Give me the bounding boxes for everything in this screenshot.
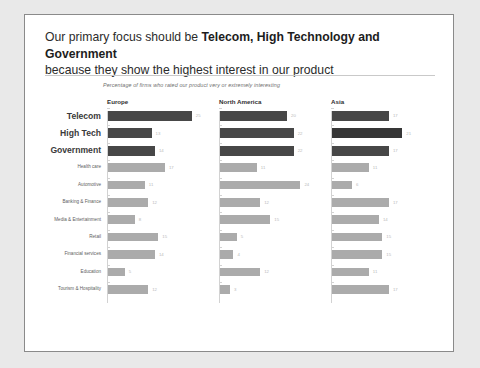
axis-tick [107, 230, 110, 231]
axis-tick [107, 195, 110, 196]
axis-tick [331, 247, 334, 248]
panel-europe: Europe25131417111281514512 [107, 91, 219, 306]
axis-tick [331, 178, 334, 179]
bar-value-label: 12 [264, 269, 269, 274]
category-label: Retail [89, 234, 101, 239]
bar [332, 181, 352, 190]
axis-tick [219, 195, 222, 196]
bar-value-label: 5 [241, 234, 243, 239]
bar [332, 198, 389, 207]
bar-value-label: 15 [162, 234, 167, 239]
axis-tick [219, 108, 222, 109]
bar-value-label: 14 [159, 148, 164, 153]
bar [332, 163, 369, 172]
axis-tick [219, 160, 222, 161]
bar-value-label: 17 [393, 200, 398, 205]
bar-value-label: 11 [373, 269, 377, 274]
bar [108, 285, 148, 294]
axis-tick [107, 125, 110, 126]
bar-value-label: 11 [261, 165, 265, 170]
axis-tick [219, 265, 222, 266]
bar-value-label: 24 [304, 182, 309, 187]
bar-value-label: 5 [129, 269, 131, 274]
bar [220, 181, 300, 190]
bar [332, 146, 389, 156]
panel-asia: Asia172117116171415151117 [331, 91, 443, 306]
bar-value-label: 8 [139, 217, 141, 222]
axis-tick [107, 265, 110, 266]
bar [332, 250, 382, 259]
category-label-column: TelecomHigh TechGovernmentHealth careAut… [25, 91, 107, 306]
bar-value-label: 12 [152, 287, 157, 292]
bar [108, 250, 155, 259]
category-label: Media & Entertainment [54, 217, 101, 222]
bar [332, 128, 402, 138]
bar [220, 163, 257, 172]
category-label: Tourism & Hospitality [58, 286, 101, 291]
bar [220, 285, 230, 294]
bar [332, 285, 389, 294]
axis-tick [219, 178, 222, 179]
bar [108, 163, 165, 172]
category-label: Financial services [64, 251, 101, 256]
title-divider [45, 75, 435, 76]
bar-value-label: 21 [406, 131, 411, 136]
axis-tick [219, 212, 222, 213]
bar-value-label: 6 [356, 182, 358, 187]
bar [220, 146, 294, 156]
bar-value-label: 17 [169, 165, 174, 170]
axis-tick [219, 125, 222, 126]
category-label: High Tech [60, 128, 101, 138]
slide-card: Our primary focus should be Telecom, Hig… [24, 14, 454, 352]
category-label: Government [50, 145, 101, 155]
bar [108, 198, 148, 207]
panel-north-america: North America2022221124121554123 [219, 91, 331, 306]
bar [108, 111, 192, 121]
bar [332, 215, 379, 224]
axis-tick [331, 108, 334, 109]
bar [220, 198, 260, 207]
category-label: Health care [78, 164, 102, 169]
bar-value-label: 17 [393, 148, 398, 153]
bar-value-label: 13 [156, 131, 161, 136]
bar-value-label: 22 [298, 148, 303, 153]
axis-tick [107, 282, 110, 283]
bar [220, 215, 270, 224]
category-label: Banking & Finance [62, 199, 101, 204]
axis-tick [219, 282, 222, 283]
bar-value-label: 4 [237, 252, 239, 257]
axis-tick [331, 160, 334, 161]
axis-tick [331, 195, 334, 196]
axis-tick [331, 212, 334, 213]
panel-title: North America [219, 98, 261, 105]
axis-tick [331, 230, 334, 231]
axis-tick [107, 143, 110, 144]
bar-value-label: 14 [383, 217, 388, 222]
bar-value-label: 3 [234, 287, 236, 292]
bar [108, 268, 125, 277]
bar [220, 128, 294, 138]
axis-tick [331, 143, 334, 144]
panel-title: Asia [331, 98, 344, 105]
page-title: Our primary focus should be Telecom, Hig… [45, 29, 437, 79]
category-label: Education [81, 269, 101, 274]
bar [220, 233, 237, 242]
bar [220, 111, 287, 121]
title-text-lead: Our primary focus should be [45, 30, 201, 44]
bar-value-label: 25 [196, 113, 201, 118]
axis-tick [107, 160, 110, 161]
axis-tick [107, 247, 110, 248]
bar [108, 233, 158, 242]
bar [108, 146, 155, 156]
axis-tick [107, 178, 110, 179]
bar-value-label: 11 [149, 182, 153, 187]
bar [332, 268, 369, 277]
axis-tick [107, 212, 110, 213]
axis-tick [219, 230, 222, 231]
bar [108, 181, 145, 190]
axis-tick [219, 247, 222, 248]
chart-area: TelecomHigh TechGovernmentHealth careAut… [25, 91, 455, 306]
bar-value-label: 17 [393, 287, 398, 292]
bar-value-label: 11 [373, 165, 377, 170]
bar-value-label: 12 [152, 200, 157, 205]
